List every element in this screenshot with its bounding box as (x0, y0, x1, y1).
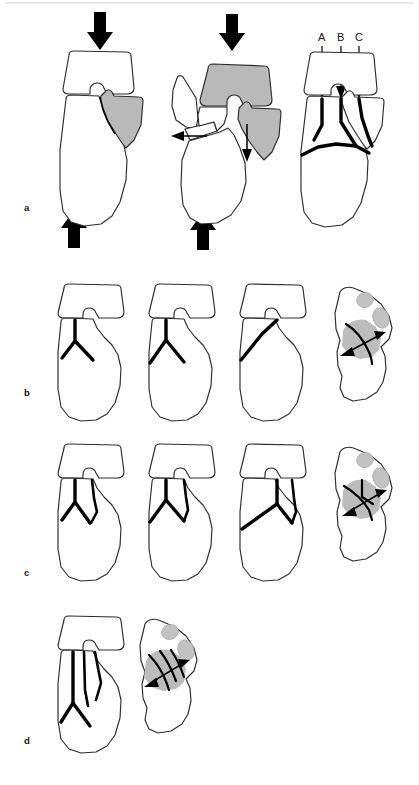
panel-d-axial-view (140, 619, 197, 733)
panel-a-fracture-lines-lateral-view: A B C (301, 31, 384, 227)
row-label-a: a (24, 202, 30, 213)
force-arrow-down-icon (219, 14, 245, 51)
row-d: d (24, 616, 197, 753)
row-label-b: b (24, 387, 30, 398)
panel-b-lateral-view-3 (240, 284, 306, 421)
row-label-d: d (24, 735, 30, 746)
row-a: a (24, 12, 384, 250)
panel-c-lateral-view-3 (240, 444, 306, 581)
cut-level-label-a: A (318, 31, 326, 43)
panel-c-axial-view (335, 447, 392, 561)
panel-b-axial-view (335, 287, 392, 401)
panel-b-lateral-view-2 (149, 284, 215, 421)
panel-a-displaced-lateral-view (171, 14, 281, 250)
panel-b-lateral-view-1 (58, 284, 124, 421)
panel-d-lateral-view-1 (58, 616, 124, 753)
figure-root: a (0, 0, 419, 785)
force-arrow-down-icon (87, 12, 113, 50)
panel-a-intact-lateral-view (60, 12, 143, 248)
fracture-figure-svg: a (0, 0, 419, 785)
row-b: b (24, 284, 392, 421)
row-label-c: c (24, 567, 29, 578)
panel-c-lateral-view-1 (58, 444, 124, 581)
cut-level-label-b: B (337, 31, 344, 43)
row-c: c (24, 444, 392, 581)
panel-c-lateral-view-2 (149, 444, 215, 581)
cut-level-label-c: C (355, 31, 363, 43)
